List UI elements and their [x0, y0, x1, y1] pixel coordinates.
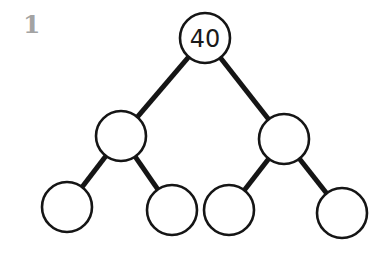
node-circle: [259, 114, 309, 164]
tree-node-right-left: [204, 185, 254, 235]
tree-node-left-left: [42, 182, 92, 232]
tree-edge-root-to-right: [220, 58, 268, 120]
node-label: 40: [190, 25, 221, 53]
tree-edge-right-to-right-left: [244, 159, 268, 190]
node-circle: [96, 111, 146, 161]
tree-edge-left-to-left-left: [82, 156, 106, 187]
tree-node-root: 40: [180, 13, 230, 63]
tree-nodes: 40: [42, 13, 367, 238]
binary-tree-diagram: 40: [0, 0, 388, 258]
tree-edge-right-to-right-right: [299, 159, 326, 194]
tree-node-right: [259, 114, 309, 164]
tree-node-left: [96, 111, 146, 161]
tree-edge-left-to-left-right: [135, 157, 158, 190]
node-circle: [204, 185, 254, 235]
tree-node-left-right: [147, 185, 197, 235]
node-circle: [42, 182, 92, 232]
node-circle: [147, 185, 197, 235]
node-circle: [317, 188, 367, 238]
tree-edge-root-to-left: [137, 57, 188, 117]
tree-node-right-right: [317, 188, 367, 238]
